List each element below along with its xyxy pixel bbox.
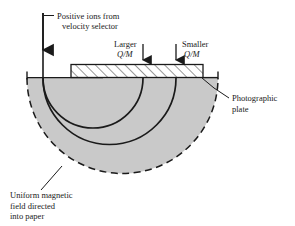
label-larger-qm: Larger Q/M [114, 39, 137, 59]
field-label-line2: field directed [10, 201, 56, 211]
uniform-magnetic-field-region [27, 72, 218, 174]
diagram-canvas: Positive ions from velocity selector Lar… [0, 0, 295, 226]
smaller-qm-label-line2: Q/M [184, 49, 201, 59]
plate-label-line2: plate [232, 104, 249, 114]
impact-arrows [143, 44, 176, 60]
label-magnetic-field: Uniform magnetic field directed into pap… [10, 190, 73, 221]
field-label-leader [41, 166, 62, 190]
field-label-line1: Uniform magnetic [10, 190, 73, 200]
field-region-fill [27, 78, 218, 174]
field-label-line3: into paper [10, 211, 44, 221]
larger-qm-label-line1: Larger [114, 39, 137, 49]
label-incoming-beam: Positive ions from velocity selector [57, 11, 120, 32]
label-smaller-qm: Smaller Q/M [182, 39, 209, 59]
larger-qm-label-line2: Q/M [117, 49, 134, 59]
photographic-plate [71, 65, 203, 78]
label-photographic-plate: Photographic plate [232, 93, 278, 114]
plate-label-line1: Photographic [232, 93, 278, 103]
beam-label-line2: velocity selector [62, 21, 118, 31]
photographic-plate-body [71, 65, 203, 78]
mass-spectrometer-figure: Positive ions from velocity selector Lar… [0, 0, 295, 226]
smaller-qm-label-line1: Smaller [182, 39, 209, 49]
beam-label-line1: Positive ions from [57, 11, 120, 21]
